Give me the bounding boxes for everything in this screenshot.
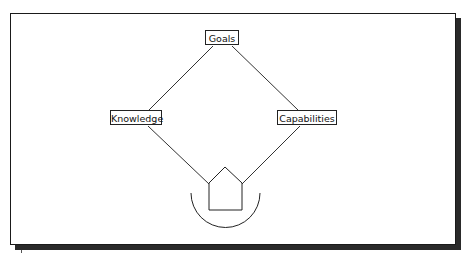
edge-capabilities-house (242, 126, 300, 184)
node-capabilities: Capabilities (277, 110, 337, 125)
node-capabilities-label: Capabilities (279, 113, 334, 124)
edge-goals-capabilities (232, 46, 298, 110)
node-knowledge-label: Knowledge (111, 113, 163, 124)
house-icon (209, 167, 242, 210)
node-goals: Goals (205, 30, 239, 45)
scan-mark (21, 250, 22, 253)
edge-knowledge-house (148, 126, 209, 184)
edge-goals-knowledge (149, 46, 213, 110)
node-knowledge: Knowledge (110, 110, 162, 125)
node-goals-label: Goals (209, 33, 236, 44)
